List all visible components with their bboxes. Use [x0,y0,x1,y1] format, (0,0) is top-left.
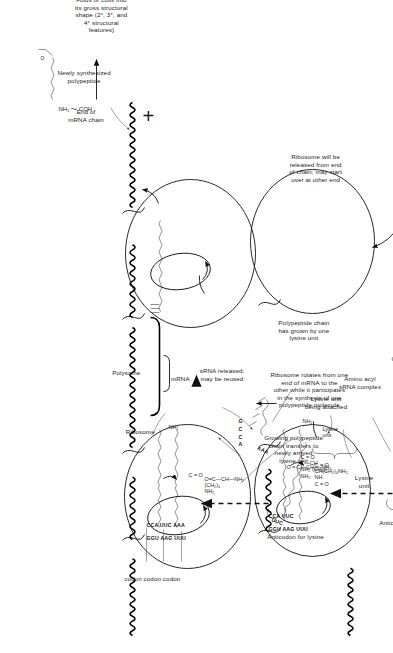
anticodon-glycine-label: Anticodon for glycine [379,518,393,526]
ribosome-3-rotation-arrow [322,497,326,513]
ribosome-4-body [250,169,374,313]
srna-released-note: sRNA released; may be reused [195,366,249,381]
mrna-label: mRNA [163,374,197,382]
ribosome-release-arrow [372,223,393,247]
anticodons-left: CCA UUC AAA [146,522,185,528]
srna-released-leader [222,407,252,429]
anticodon-loop-right [386,499,393,509]
chem-chain-glycine: O = C—CH₂—NH₂ [286,463,331,469]
ribosome-released-note: Ribosome will be released from end of ch… [282,153,348,183]
mrna-codons-right: GGU AAG UUU [268,526,308,532]
chem-left-lysine-residue: O=C—CH—NH₂ (CH₂)₄ NH₂ [204,475,244,494]
polysome-label: Polysome [103,368,149,376]
protein-synthesis-diagram: End of mRNA chain Ribosome mRNA Polysome… [0,0,393,653]
anticodons-right: CCA UUC [268,513,293,519]
ribosome-label: Ribosome [114,427,166,435]
chem-left-nh2: NH₂ [168,423,178,429]
lysine-unit-label: Lysine unit [350,473,378,488]
amino-acyl-srna-label: Amino acyl sRNA complex [335,374,385,389]
chain-grown-note: Polypeptide chain has grown by one lysin… [272,319,334,342]
chem-left-carbonyl: C = O [188,471,202,477]
chem-bottom-nh2: NH₂ [302,417,312,423]
glycine-added-leader [372,417,390,451]
chem-lysine-unit-label: Lysine unit [322,425,337,437]
folding-note: Folds or coils into its gross structural… [62,0,140,33]
newly-synthesized-polypeptide-label: Newly synthesized polypeptide [49,68,119,83]
chem-newly-synthesized-polypeptide: NH₂ 〜 COH [58,105,92,112]
released-srna-letters: G C C A [238,417,242,448]
mrna-codons-left: GGU AAG UUU [146,535,186,541]
lysine-attached-note: Lysine unit being attached [303,394,349,409]
trna-stem-4 [299,477,302,519]
glycine-added-note: Glycine unit about to be added to growin… [387,354,393,392]
codon-labels: codon codon codon [115,574,189,582]
chem-carbonyl-oxygen: O [40,55,44,61]
plus-sign: + [142,105,154,125]
anticodon-lysine-label: Anticodon for lysine [267,532,333,540]
